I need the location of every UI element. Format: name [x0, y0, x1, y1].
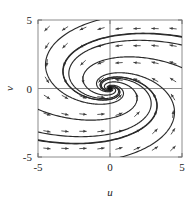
- field-arrow-head: [65, 113, 68, 116]
- field-arrow-head: [116, 61, 119, 64]
- field-arrow-head: [170, 44, 173, 47]
- trajectory-5: [63, 34, 189, 100]
- field-arrow-head: [83, 147, 86, 150]
- field-arrow-head: [152, 27, 155, 30]
- field-arrow-head: [134, 44, 137, 47]
- equilibrium-point: [108, 86, 113, 91]
- field-arrow-head: [134, 27, 137, 30]
- x-axis-title: u: [107, 186, 113, 198]
- y-tick-label: 0: [27, 83, 33, 95]
- x-tick-label: 0: [107, 161, 113, 173]
- field-arrow-head: [47, 130, 50, 133]
- x-tick-label: -5: [33, 161, 43, 173]
- field-arrow-head: [65, 147, 68, 150]
- trajectory-10: [31, 77, 157, 143]
- phase-portrait-canvas: -50550-5uv: [0, 0, 196, 202]
- field-arrow-head: [152, 61, 155, 64]
- field-arrow-head: [83, 130, 86, 133]
- y-tick-label: -5: [23, 151, 33, 163]
- y-tick-label: 5: [27, 14, 33, 26]
- x-tick-label: 5: [179, 161, 185, 173]
- y-axis-title: v: [3, 86, 15, 91]
- phase-portrait-figure: -50550-5uv: [0, 0, 196, 202]
- field-arrow-head: [101, 113, 104, 116]
